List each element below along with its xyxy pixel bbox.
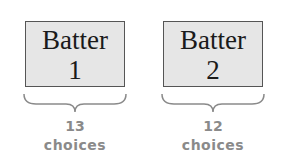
slot-number: 1 xyxy=(26,55,124,85)
batter-2-slot: Batter 2 xyxy=(163,21,263,87)
curly-brace-icon xyxy=(22,92,128,114)
batter-1-slot: Batter 1 xyxy=(25,21,125,87)
slot-title: Batter xyxy=(26,25,124,55)
slot-number: 2 xyxy=(164,55,262,85)
choice-word: choices xyxy=(22,137,128,153)
choice-count: 12 xyxy=(160,118,266,134)
choice-word: choices xyxy=(160,137,266,153)
curly-brace-icon xyxy=(160,92,266,114)
choice-count: 13 xyxy=(22,118,128,134)
slot-title: Batter xyxy=(164,25,262,55)
